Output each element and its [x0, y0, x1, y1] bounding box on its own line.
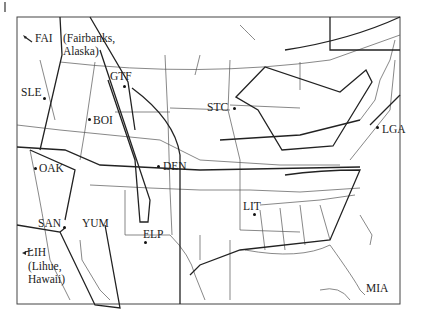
- us-map: FAI (Fairbanks, Alaska) SLE BOI GTF STC …: [0, 0, 429, 330]
- arrow-icons: [0, 0, 429, 330]
